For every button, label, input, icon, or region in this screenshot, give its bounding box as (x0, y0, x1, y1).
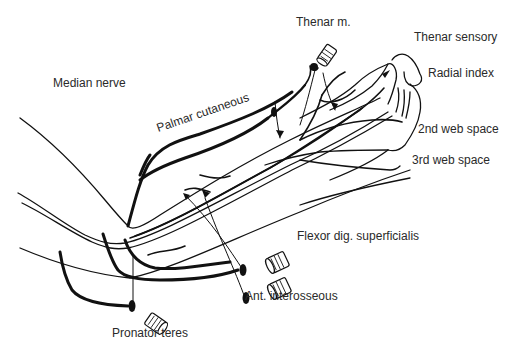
label-radial-index: Radial index (428, 67, 494, 79)
label-ant-interosseous: Ant. interosseous (245, 290, 338, 302)
label-2nd-web-space: 2nd web space (418, 123, 499, 135)
label-flexor-dig-superficialis: Flexor dig. superficialis (297, 230, 419, 242)
label-thenar-sensory: Thenar sensory (414, 31, 497, 43)
median-nerve-diagram: Median nerve Palmar cutaneous Thenar m. … (0, 0, 511, 354)
label-3rd-web-space: 3rd web space (412, 154, 490, 166)
label-thenar-m: Thenar m. (296, 16, 351, 28)
label-median-nerve: Median nerve (53, 77, 126, 89)
label-pronator-teres: Pronator teres (112, 327, 188, 339)
